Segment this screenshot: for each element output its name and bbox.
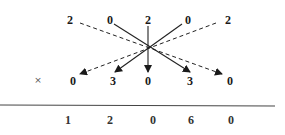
multiplier-digit: 3 [110,75,116,87]
multiplicand-digit: 2 [145,14,151,26]
multiplier-digit: 3 [187,75,193,87]
multiplicand-digit: 2 [67,14,73,26]
result-digit: 0 [150,114,156,126]
multiplicand-digit: 0 [107,14,113,26]
multiply-operator: × [34,76,42,85]
result-digit: 1 [65,114,71,126]
multiplicand-digit: 2 [225,14,231,26]
result-separator-line [0,105,275,106]
result-digit: 2 [107,114,113,126]
multiplier-digit: 0 [227,75,233,87]
cross-multiplication-diagram: 2 0 2 0 2 × 0 3 0 3 0 1 2 0 6 0 [0,0,285,135]
result-digit: 6 [188,114,194,126]
multiplier-digit: 0 [145,75,151,87]
result-digit: 0 [228,114,234,126]
arrow-layer [0,0,285,135]
multiplier-digit: 0 [70,75,76,87]
multiplicand-digit: 0 [185,14,191,26]
